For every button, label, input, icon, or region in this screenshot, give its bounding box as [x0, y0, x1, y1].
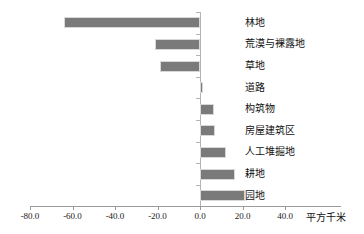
x-tick-mark — [115, 206, 116, 210]
x-tick-mark — [30, 206, 31, 210]
x-tick-label: -40.0 — [95, 211, 135, 221]
bar — [200, 147, 226, 158]
category-tick-mark — [196, 55, 200, 56]
bar-chart-plot-area: -80.0-60.0-40.0-20.00.020.040.0 林地荒漠与裸露地… — [0, 0, 364, 234]
x-tick-mark — [243, 206, 244, 210]
category-label: 道路 — [245, 82, 265, 93]
bar — [155, 39, 200, 50]
category-label: 荒漠与裸露地 — [245, 38, 305, 49]
category-tick-mark — [196, 34, 200, 35]
x-tick-label: 0.0 — [180, 211, 220, 221]
x-tick-label: 20.0 — [223, 211, 263, 221]
x-tick-mark — [285, 206, 286, 210]
bar — [200, 104, 214, 115]
bar — [200, 169, 235, 180]
x-tick-mark — [200, 206, 201, 210]
chart-container: -80.0-60.0-40.0-20.00.020.040.0 林地荒漠与裸露地… — [0, 0, 364, 234]
category-label: 人工堆掘地 — [245, 146, 295, 157]
bar — [200, 190, 245, 201]
bar — [64, 17, 200, 28]
x-tick-mark — [158, 206, 159, 210]
category-label: 耕地 — [245, 168, 265, 179]
category-tick-mark — [196, 98, 200, 99]
bar — [200, 82, 203, 93]
category-tick-mark — [196, 77, 200, 78]
x-axis-line — [30, 206, 341, 207]
x-tick-label: 40.0 — [265, 211, 305, 221]
category-tick-mark — [196, 142, 200, 143]
category-tick-mark — [196, 12, 200, 13]
bar — [200, 125, 215, 136]
x-tick-label: -20.0 — [138, 211, 178, 221]
x-axis-unit-label: 平方千米 — [306, 209, 346, 224]
category-label: 园地 — [245, 190, 265, 201]
category-label: 林地 — [245, 17, 265, 28]
category-tick-mark — [196, 163, 200, 164]
category-label: 草地 — [245, 60, 265, 71]
bar — [160, 61, 200, 72]
category-label: 构筑物 — [245, 103, 275, 114]
x-tick-label: -80.0 — [10, 211, 50, 221]
x-tick-label: -60.0 — [53, 211, 93, 221]
category-label: 房屋建筑区 — [245, 125, 295, 136]
category-tick-mark — [196, 120, 200, 121]
x-tick-mark — [73, 206, 74, 210]
category-tick-mark — [196, 185, 200, 186]
